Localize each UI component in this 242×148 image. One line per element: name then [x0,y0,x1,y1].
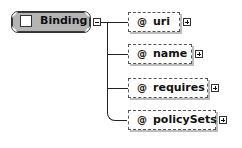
expand-toggle-icon[interactable] [195,50,203,58]
connector-trunk [107,22,108,111]
attribute-label: requires [153,81,205,95]
root-node-label: Binding [40,14,87,28]
connector-line [107,88,128,89]
attribute-at-icon: @ [137,16,147,28]
expand-toggle-icon[interactable] [211,84,219,92]
attribute-at-icon: @ [137,82,147,94]
collapse-toggle-icon[interactable] [93,18,101,26]
checkbox-icon [20,15,32,27]
attribute-label: name [153,47,187,61]
attribute-at-icon: @ [137,114,147,126]
attribute-label: uri [153,15,170,29]
connector-line [107,54,128,55]
attribute-at-icon: @ [137,48,147,60]
expand-toggle-icon[interactable] [183,18,191,26]
expand-toggle-icon[interactable] [219,116,227,124]
attribute-label: policySets [153,113,217,127]
connector-line [101,22,128,23]
connector-curve [107,110,127,121]
